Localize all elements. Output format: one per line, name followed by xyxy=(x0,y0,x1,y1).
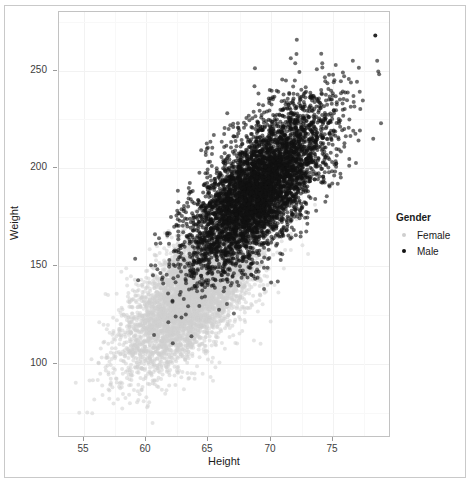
x-tick-mark xyxy=(332,437,333,441)
x-tick-label: 70 xyxy=(250,443,290,454)
legend-item-male[interactable]: Male xyxy=(396,243,462,259)
y-tick-label: 100 xyxy=(13,357,47,368)
legend-dot-icon xyxy=(402,249,406,253)
x-axis-title: Height xyxy=(58,455,390,467)
y-tick-mark xyxy=(53,363,57,364)
x-tick-label: 65 xyxy=(187,443,227,454)
legend-items: FemaleMale xyxy=(396,227,462,259)
x-tick-mark xyxy=(83,437,84,441)
legend-item-label: Female xyxy=(417,230,450,241)
legend-item-female[interactable]: Female xyxy=(396,227,462,243)
y-tick-label: 150 xyxy=(13,259,47,270)
y-axis-title: Weight xyxy=(8,193,20,253)
x-tick-mark xyxy=(207,437,208,441)
x-tick-label: 75 xyxy=(312,443,352,454)
y-tick-mark xyxy=(53,167,57,168)
legend-key-swatch xyxy=(396,243,412,259)
plot-panel xyxy=(58,11,390,437)
legend-key-swatch xyxy=(396,227,412,243)
legend-dot-icon xyxy=(402,233,406,237)
scatter-plot-figure: 5560657075 100150200250 Height Weight Ge… xyxy=(0,0,472,487)
data-points-layer xyxy=(59,12,389,436)
x-tick-label: 55 xyxy=(63,443,103,454)
legend-item-label: Male xyxy=(417,246,439,257)
x-tick-mark xyxy=(270,437,271,441)
y-tick-label: 200 xyxy=(13,161,47,172)
y-tick-mark xyxy=(53,265,57,266)
legend: Gender FemaleMale xyxy=(396,212,462,259)
x-tick-label: 60 xyxy=(125,443,165,454)
x-tick-mark xyxy=(145,437,146,441)
legend-title: Gender xyxy=(396,212,462,223)
y-tick-mark xyxy=(53,70,57,71)
y-tick-label: 250 xyxy=(13,64,47,75)
